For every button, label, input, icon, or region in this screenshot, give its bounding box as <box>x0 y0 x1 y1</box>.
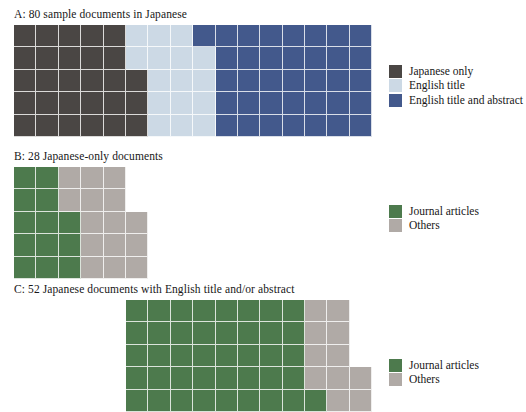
waffle-cell <box>260 47 282 69</box>
waffle-cell <box>238 47 260 69</box>
waffle-cell <box>238 390 260 412</box>
waffle-cell <box>327 390 349 412</box>
waffle-cell <box>193 70 215 92</box>
waffle-cell <box>305 345 327 367</box>
waffle-cell <box>260 25 282 47</box>
waffle-cell <box>350 390 372 412</box>
waffle-cell-empty <box>81 322 103 344</box>
waffle-cell <box>216 92 238 114</box>
waffle-cell <box>81 25 103 47</box>
waffle-cell <box>193 92 215 114</box>
waffle-cell <box>14 234 36 256</box>
waffle-cell <box>104 212 126 234</box>
waffle-cell <box>59 70 81 92</box>
legend-c: Journal articlesOthers <box>389 358 479 387</box>
waffle-cell-empty <box>104 390 126 412</box>
waffle-cell <box>350 70 372 92</box>
legend-item: Others <box>389 373 479 388</box>
legend-label: Journal articles <box>409 359 479 372</box>
waffle-cell-empty <box>126 189 148 211</box>
waffle-cell <box>104 70 126 92</box>
waffle-cell <box>104 234 126 256</box>
panel-b: B: 28 Japanese-only documents <box>14 150 163 279</box>
waffle-cell <box>148 322 170 344</box>
waffle-cell <box>36 115 58 137</box>
waffle-cell <box>238 92 260 114</box>
waffle-cell-empty <box>59 390 81 412</box>
legend-swatch-icon <box>389 205 402 218</box>
waffle-cell-empty <box>59 367 81 389</box>
waffle-cell <box>36 257 58 279</box>
waffle-cell <box>148 25 170 47</box>
waffle-cell-empty <box>81 367 103 389</box>
waffle-cell <box>148 47 170 69</box>
waffle-cell <box>171 115 193 137</box>
legend-item: English title and abstract <box>389 93 523 108</box>
waffle-chart-a <box>14 25 372 137</box>
waffle-cell-empty <box>36 390 58 412</box>
waffle-cell <box>216 390 238 412</box>
waffle-cell-empty <box>350 322 372 344</box>
waffle-cell-empty <box>14 345 36 367</box>
waffle-cell <box>59 189 81 211</box>
waffle-cell <box>126 345 148 367</box>
waffle-cell-empty <box>14 390 36 412</box>
waffle-cell <box>14 25 36 47</box>
waffle-cell <box>104 115 126 137</box>
waffle-cell <box>104 92 126 114</box>
legend-item: Japanese only <box>389 64 523 79</box>
legend-a: Japanese onlyEnglish titleEnglish title … <box>389 64 523 108</box>
panel-c: C: 52 Japanese documents with English ti… <box>14 283 372 412</box>
waffle-cell <box>305 47 327 69</box>
legend-swatch-icon <box>389 219 402 232</box>
waffle-cell <box>59 234 81 256</box>
waffle-cell <box>238 70 260 92</box>
waffle-cell <box>260 70 282 92</box>
panel-b-title: B: 28 Japanese-only documents <box>14 150 163 163</box>
waffle-cell <box>238 367 260 389</box>
waffle-cell-empty <box>36 322 58 344</box>
waffle-cell <box>260 300 282 322</box>
waffle-cell <box>350 367 372 389</box>
waffle-cell <box>171 390 193 412</box>
legend-swatch-icon <box>389 359 402 372</box>
waffle-cell <box>238 115 260 137</box>
waffle-cell <box>126 367 148 389</box>
waffle-cell <box>14 47 36 69</box>
waffle-cell <box>59 92 81 114</box>
legend-label: Journal articles <box>409 205 479 218</box>
waffle-cell <box>305 322 327 344</box>
waffle-cell <box>327 322 349 344</box>
waffle-cell-empty <box>59 300 81 322</box>
waffle-cell <box>283 322 305 344</box>
waffle-cell <box>81 167 103 189</box>
waffle-cell <box>171 47 193 69</box>
waffle-cell <box>260 390 282 412</box>
waffle-cell <box>36 47 58 69</box>
waffle-cell <box>36 189 58 211</box>
waffle-cell <box>59 25 81 47</box>
waffle-cell <box>193 115 215 137</box>
waffle-cell <box>81 70 103 92</box>
waffle-cell <box>327 47 349 69</box>
waffle-cell <box>193 300 215 322</box>
waffle-cell <box>81 212 103 234</box>
waffle-cell <box>14 189 36 211</box>
waffle-cell <box>171 92 193 114</box>
waffle-cell <box>327 345 349 367</box>
waffle-cell <box>305 115 327 137</box>
waffle-cell <box>327 115 349 137</box>
waffle-cell <box>193 390 215 412</box>
waffle-cell <box>81 234 103 256</box>
waffle-cell <box>36 92 58 114</box>
waffle-cell <box>193 345 215 367</box>
waffle-cell <box>36 212 58 234</box>
waffle-cell-empty <box>126 167 148 189</box>
legend-swatch-icon <box>389 94 402 107</box>
waffle-cell <box>238 25 260 47</box>
waffle-cell <box>104 257 126 279</box>
waffle-cell <box>350 115 372 137</box>
waffle-cell <box>14 115 36 137</box>
waffle-cell <box>238 345 260 367</box>
waffle-cell-empty <box>14 300 36 322</box>
